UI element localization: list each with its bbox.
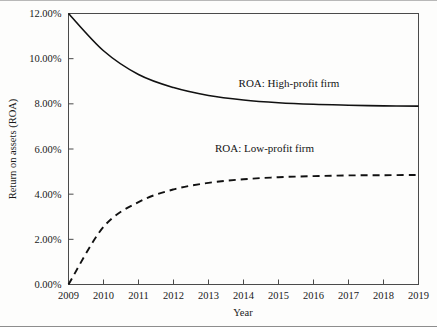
- x-tick-label: 2010: [93, 290, 114, 301]
- y-tick-label: 0.00%: [34, 279, 61, 290]
- roa-line-chart: 0.00%2.00%4.00%6.00%8.00%10.00%12.00% 20…: [0, 1, 437, 327]
- y-tick-label: 4.00%: [34, 189, 61, 200]
- y-tick-label: 10.00%: [29, 53, 62, 64]
- chart-figure: 0.00%2.00%4.00%6.00%8.00%10.00%12.00% 20…: [0, 0, 437, 327]
- y-tick-label: 2.00%: [34, 234, 61, 245]
- y-tick-label: 6.00%: [34, 144, 61, 155]
- x-axis-ticks: 2009201020112012201320142015201620172018…: [58, 280, 429, 301]
- y-axis-ticks: 0.00%2.00%4.00%6.00%8.00%10.00%12.00%: [29, 8, 73, 290]
- x-tick-label: 2015: [268, 290, 289, 301]
- x-tick-label: 2017: [338, 290, 359, 301]
- x-tick-label: 2009: [58, 290, 79, 301]
- x-tick-label: 2014: [233, 290, 255, 301]
- y-axis-title: Return on assets (ROA): [7, 98, 19, 199]
- x-tick-label: 2013: [198, 290, 219, 301]
- x-tick-label: 2016: [303, 290, 324, 301]
- x-tick-label: 2018: [373, 290, 394, 301]
- series-label-low-profit: ROA: Low-profit firm: [215, 142, 314, 154]
- x-axis-title: Year: [233, 307, 253, 318]
- x-tick-label: 2012: [163, 290, 184, 301]
- y-tick-label: 8.00%: [34, 98, 61, 109]
- series-label-high-profit: ROA: High-profit firm: [239, 77, 340, 89]
- series-line-high-profit: [69, 14, 419, 107]
- x-tick-label: 2011: [128, 290, 149, 301]
- x-tick-label: 2019: [408, 290, 429, 301]
- y-tick-label: 12.00%: [29, 8, 62, 19]
- series-line-low-profit: [69, 175, 419, 285]
